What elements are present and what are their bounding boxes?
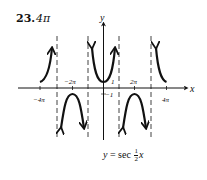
function-equation: y = sec 12x <box>103 148 143 163</box>
branch-left-down <box>61 94 84 128</box>
eq-var: x <box>139 149 143 160</box>
tick-label-1: 1 <box>111 78 115 86</box>
branch-left-up <box>40 48 52 82</box>
tick-label-neg1: −1 <box>105 91 113 99</box>
branch-right-up <box>156 48 167 82</box>
tick-label-neg4pi: −4π <box>33 96 45 104</box>
tick-label-neg2pi: −2π <box>64 78 76 86</box>
eq-denominator: 2 <box>134 156 138 163</box>
eq-mid: = sec <box>107 149 133 160</box>
branch-right-down <box>123 94 146 128</box>
tick-label-4pi: 4π <box>162 96 170 104</box>
eq-fraction: 12 <box>134 148 138 163</box>
x-axis-label: x <box>189 83 195 94</box>
tick-label-2pi: 2π <box>130 78 138 86</box>
y-axis-label: y <box>99 12 105 23</box>
